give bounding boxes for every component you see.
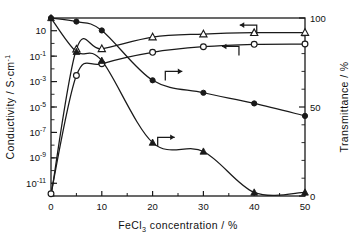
y2-tick-label: 100 [310, 13, 326, 24]
x-tick-label: 30 [198, 201, 209, 212]
data-point-open-circle [74, 73, 80, 79]
data-point-open-circle [201, 44, 207, 50]
conductivity-transmittance-chart: 010203040501010-110-310-510-710-910-1105… [0, 0, 361, 236]
x-tick-label: 50 [300, 201, 311, 212]
y2-tick-label: 0 [310, 191, 315, 202]
y-tick-label: 10 [35, 25, 46, 36]
data-point-open-circle [302, 41, 308, 47]
y2-axis-title: Transmittance / % [338, 61, 350, 152]
data-point-filled-circle [99, 28, 104, 33]
data-point-filled-circle [74, 19, 79, 24]
data-point-filled-circle [150, 78, 155, 83]
data-point-open-circle [150, 49, 156, 55]
data-point-filled-circle [302, 113, 307, 118]
y2-tick-label: 50 [310, 102, 321, 113]
x-tick-label: 20 [147, 201, 158, 212]
data-point-open-circle [48, 191, 54, 197]
x-tick-label: 10 [97, 201, 108, 212]
y-axis-title: Conductivity / S·cm-1 [4, 54, 16, 159]
data-point-filled-circle [201, 90, 206, 95]
figure-container: 010203040501010-110-310-510-710-910-1105… [0, 0, 361, 236]
data-point-open-circle [251, 41, 257, 47]
data-point-filled-circle [252, 101, 257, 106]
x-tick-label: 40 [249, 201, 260, 212]
x-tick-label: 0 [48, 201, 53, 212]
